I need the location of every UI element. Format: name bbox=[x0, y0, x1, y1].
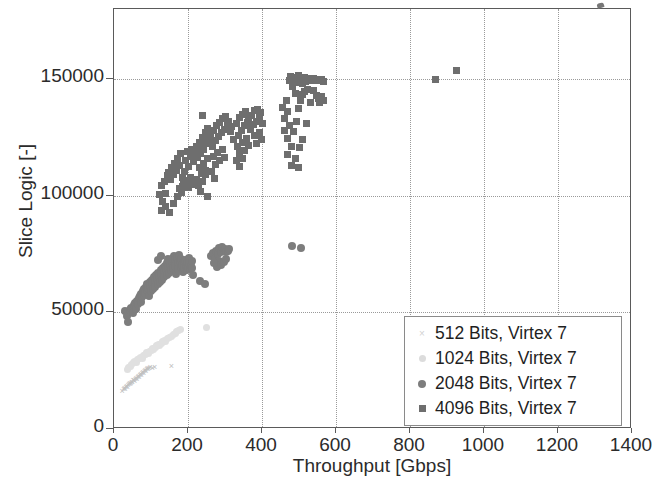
legend-marker-icon bbox=[409, 371, 435, 396]
legend-item-1[interactable]: 1024 Bits, Virtex 7 bbox=[409, 346, 619, 371]
data-point bbox=[216, 157, 223, 164]
data-point bbox=[150, 273, 158, 281]
data-point bbox=[215, 257, 223, 265]
legend-label: 512 Bits, Virtex 7 bbox=[435, 323, 567, 344]
data-point bbox=[150, 346, 157, 353]
data-point bbox=[134, 300, 142, 308]
data-point bbox=[204, 125, 211, 132]
data-point bbox=[140, 352, 147, 359]
data-point bbox=[166, 261, 174, 269]
data-point bbox=[230, 136, 237, 143]
data-point bbox=[180, 258, 188, 266]
data-point bbox=[250, 121, 257, 128]
y-tick bbox=[106, 428, 113, 429]
data-point bbox=[201, 280, 209, 288]
data-point bbox=[198, 170, 205, 177]
gridline-vertical bbox=[262, 9, 263, 427]
data-point bbox=[127, 363, 134, 370]
data-point bbox=[286, 77, 293, 84]
data-point bbox=[222, 248, 230, 256]
data-point: × bbox=[142, 368, 149, 375]
data-point: × bbox=[141, 368, 148, 375]
data-point bbox=[224, 122, 231, 129]
data-point bbox=[221, 126, 228, 133]
data-point bbox=[196, 139, 203, 146]
data-point bbox=[139, 355, 146, 362]
data-point bbox=[189, 271, 197, 279]
data-point bbox=[142, 351, 149, 358]
y-axis-label: Slice Logic [-] bbox=[15, 91, 37, 311]
data-point: × bbox=[136, 374, 143, 381]
scatter-chart-figure: ××××××××××××××××××××××××××××××××××××××××… bbox=[0, 0, 654, 481]
data-point bbox=[157, 270, 165, 278]
data-point: × bbox=[129, 379, 136, 386]
data-point bbox=[168, 255, 176, 263]
data-point bbox=[190, 158, 197, 165]
data-point bbox=[219, 146, 226, 153]
data-point bbox=[258, 136, 265, 143]
gridline-vertical bbox=[188, 9, 189, 427]
data-point: × bbox=[121, 385, 128, 392]
data-point bbox=[136, 292, 144, 300]
data-point: × bbox=[145, 366, 152, 373]
data-point bbox=[179, 174, 186, 181]
data-point bbox=[310, 87, 317, 94]
legend-item-0[interactable]: ×512 Bits, Virtex 7 bbox=[409, 321, 619, 346]
x-tick bbox=[113, 428, 114, 433]
data-point bbox=[175, 251, 183, 259]
data-point bbox=[211, 255, 219, 263]
data-point bbox=[214, 250, 222, 258]
data-point bbox=[185, 254, 193, 262]
data-point bbox=[304, 75, 311, 82]
data-point bbox=[219, 115, 226, 122]
data-point bbox=[222, 113, 229, 120]
data-point bbox=[165, 169, 172, 176]
data-point bbox=[173, 254, 181, 262]
data-point bbox=[288, 242, 296, 250]
data-point bbox=[288, 162, 295, 169]
data-point bbox=[163, 259, 171, 267]
x-tick-label: 200 bbox=[152, 434, 222, 456]
data-point bbox=[284, 108, 291, 115]
data-point: × bbox=[138, 372, 145, 379]
data-point bbox=[197, 188, 204, 195]
data-point bbox=[279, 104, 286, 111]
data-point bbox=[177, 255, 185, 263]
data-point bbox=[297, 97, 304, 104]
data-point bbox=[166, 334, 173, 341]
data-point bbox=[130, 301, 138, 309]
data-point: × bbox=[120, 386, 127, 393]
data-point bbox=[253, 140, 260, 147]
data-point bbox=[143, 349, 150, 356]
x-tick-label: 600 bbox=[300, 434, 370, 456]
legend-item-2[interactable]: 2048 Bits, Virtex 7 bbox=[409, 371, 619, 396]
data-point bbox=[184, 148, 191, 155]
data-point bbox=[199, 178, 206, 185]
data-point bbox=[140, 285, 148, 293]
data-point bbox=[130, 359, 137, 366]
data-point bbox=[227, 128, 234, 135]
data-point bbox=[169, 264, 177, 272]
data-point bbox=[212, 247, 220, 255]
data-point bbox=[177, 263, 185, 271]
data-point bbox=[158, 340, 165, 347]
data-point bbox=[245, 142, 252, 149]
legend-item-3[interactable]: 4096 Bits, Virtex 7 bbox=[409, 396, 619, 421]
data-point: × bbox=[130, 377, 137, 384]
data-point bbox=[185, 184, 192, 191]
chart-legend[interactable]: ×512 Bits, Virtex 71024 Bits, Virtex 720… bbox=[404, 316, 622, 426]
data-point bbox=[204, 155, 211, 162]
data-point bbox=[179, 183, 186, 190]
data-point bbox=[156, 191, 163, 198]
data-point bbox=[182, 262, 190, 270]
data-point bbox=[166, 209, 173, 216]
data-point bbox=[200, 160, 207, 167]
data-point bbox=[295, 72, 302, 79]
data-point bbox=[123, 312, 131, 320]
data-point: × bbox=[130, 377, 137, 384]
data-point bbox=[195, 182, 202, 189]
data-point bbox=[315, 76, 322, 83]
data-point bbox=[162, 338, 169, 345]
data-point bbox=[242, 108, 249, 115]
data-point bbox=[127, 304, 135, 312]
